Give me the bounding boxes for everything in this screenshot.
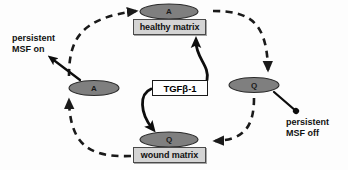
annotation-msf-on: persistent MSF on xyxy=(12,33,55,54)
wound-matrix-box: wound matrix xyxy=(133,147,206,163)
annotation-msf-off: persistent MSF off xyxy=(286,117,329,138)
node-ellipse-top-a xyxy=(140,4,198,19)
healthy-matrix-box: healthy matrix xyxy=(133,19,206,35)
edge-right-to-msf-off xyxy=(274,92,296,111)
node-ellipse-left-a xyxy=(69,81,119,96)
edge-right-to-bottom xyxy=(215,98,254,141)
diagram-canvas: A A Q Q healthy matrix wound matrix TGFβ… xyxy=(0,0,348,170)
edge-bottom-to-left xyxy=(69,100,131,156)
edge-signal-to-healthy xyxy=(196,42,207,80)
tgfb1-box: TGFβ-1 xyxy=(152,80,208,96)
edge-left-to-msf-on xyxy=(51,58,80,80)
node-ellipse-right-q xyxy=(229,78,279,93)
edge-left-to-top xyxy=(69,11,136,76)
edge-signal-to-wound xyxy=(142,89,152,128)
edge-top-to-right xyxy=(213,11,268,70)
node-ellipse-bottom-q xyxy=(140,132,198,147)
